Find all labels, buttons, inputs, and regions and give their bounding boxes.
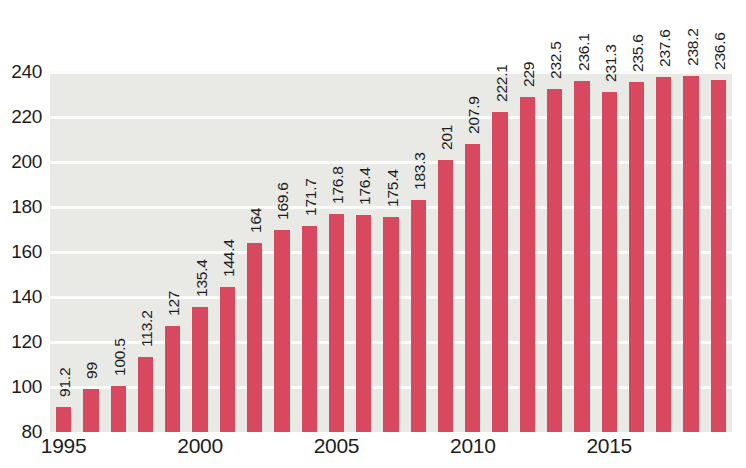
bar-value-label: 91.2	[56, 367, 74, 396]
bar[interactable]	[520, 97, 535, 432]
bar[interactable]	[356, 215, 371, 432]
y-axis-tick-label: 200	[11, 151, 42, 173]
bar-value-label: 135.4	[193, 260, 211, 298]
bar-value-label: 100.5	[111, 338, 129, 376]
bar-slot: 176.4	[350, 72, 377, 432]
bar[interactable]	[329, 214, 344, 432]
bar-value-label: 144.4	[220, 239, 238, 277]
bar-slot: 175.4	[377, 72, 404, 432]
bar-value-label: 164	[247, 208, 265, 233]
bar-value-label: 183.3	[411, 152, 429, 190]
bar-slot: 237.6	[650, 72, 677, 432]
bar[interactable]	[192, 307, 207, 432]
bar[interactable]	[274, 230, 289, 432]
bar-slot: 99	[77, 72, 104, 432]
bar-slot: 229	[514, 72, 541, 432]
bar-slot: 201	[432, 72, 459, 432]
bar[interactable]	[111, 386, 126, 432]
bar-value-label: 235.6	[629, 34, 647, 72]
bar-slot: 169.6	[268, 72, 295, 432]
y-axis-tick-label: 220	[11, 106, 42, 128]
bar[interactable]	[383, 217, 398, 432]
bar-value-label: 232.5	[547, 41, 565, 79]
bar-value-label: 113.2	[138, 311, 156, 348]
bar-slot: 171.7	[296, 72, 323, 432]
bar[interactable]	[656, 77, 671, 432]
bar-value-label: 175.4	[384, 170, 402, 208]
bar-slot: 207.9	[459, 72, 486, 432]
x-axis-tick-label: 1995	[41, 434, 87, 458]
bar[interactable]	[465, 144, 480, 432]
bar[interactable]	[629, 82, 644, 432]
bar[interactable]	[220, 287, 235, 432]
bar-slot: 135.4	[186, 72, 213, 432]
bar-chart: 91.299100.5113.2127135.4144.4164169.6171…	[0, 0, 746, 468]
bars-layer: 91.299100.5113.2127135.4144.4164169.6171…	[50, 72, 732, 432]
x-axis-tick-label: 2000	[177, 434, 223, 458]
y-axis-tick-label: 140	[11, 286, 42, 308]
bar-slot: 164	[241, 72, 268, 432]
bar[interactable]	[683, 76, 698, 432]
y-axis: 24022020018016014012010080	[0, 72, 46, 432]
bar[interactable]	[165, 326, 180, 432]
bar[interactable]	[438, 160, 453, 432]
y-axis-tick-label: 160	[11, 241, 42, 263]
y-axis-tick-label: 240	[11, 61, 42, 83]
x-axis: 19952000200520102015	[50, 432, 732, 468]
bar-slot: 232.5	[541, 72, 568, 432]
bar-slot: 236.6	[705, 72, 732, 432]
bar-value-label: 127	[165, 291, 183, 316]
bar-value-label: 99	[83, 362, 101, 379]
bar-slot: 113.2	[132, 72, 159, 432]
bar[interactable]	[302, 226, 317, 432]
bar-slot: 144.4	[214, 72, 241, 432]
y-axis-tick-label: 180	[11, 196, 42, 218]
x-axis-tick-label: 2005	[314, 434, 360, 458]
bar[interactable]	[547, 89, 562, 432]
bar-value-label: 236.1	[575, 33, 593, 71]
y-axis-tick-label: 80	[21, 421, 42, 443]
bar-value-label: 231.3	[602, 44, 620, 82]
y-axis-tick-label: 100	[11, 376, 42, 398]
bar-value-label: 176.8	[329, 166, 347, 204]
bar-value-label: 201	[438, 124, 456, 149]
bar-value-label: 238.2	[684, 28, 702, 66]
x-axis-tick-label: 2015	[586, 434, 632, 458]
bar-value-label: 229	[520, 61, 538, 86]
bar-slot: 235.6	[623, 72, 650, 432]
bar-slot: 127	[159, 72, 186, 432]
bar-value-label: 176.4	[356, 167, 374, 205]
x-axis-tick-label: 2010	[450, 434, 496, 458]
bar[interactable]	[411, 200, 426, 432]
bar-slot: 91.2	[50, 72, 77, 432]
y-axis-tick-label: 120	[11, 331, 42, 353]
bar-slot: 222.1	[486, 72, 513, 432]
bar[interactable]	[602, 92, 617, 432]
bar-value-label: 169.6	[274, 183, 292, 221]
bar[interactable]	[247, 243, 262, 432]
bar-slot: 176.8	[323, 72, 350, 432]
bar-value-label: 171.7	[302, 178, 320, 216]
bar[interactable]	[574, 81, 589, 432]
bar[interactable]	[56, 407, 71, 432]
bar-slot: 236.1	[568, 72, 595, 432]
bar-slot: 231.3	[596, 72, 623, 432]
bar[interactable]	[711, 80, 726, 432]
bar-slot: 238.2	[677, 72, 704, 432]
bar[interactable]	[138, 357, 153, 432]
bar-value-label: 236.6	[711, 32, 729, 70]
bar-value-label: 237.6	[656, 30, 674, 68]
bar-slot: 183.3	[405, 72, 432, 432]
bar-value-label: 222.1	[493, 64, 511, 102]
bar-value-label: 207.9	[465, 96, 483, 134]
bar[interactable]	[492, 112, 507, 432]
bar[interactable]	[83, 389, 98, 432]
bar-slot: 100.5	[105, 72, 132, 432]
